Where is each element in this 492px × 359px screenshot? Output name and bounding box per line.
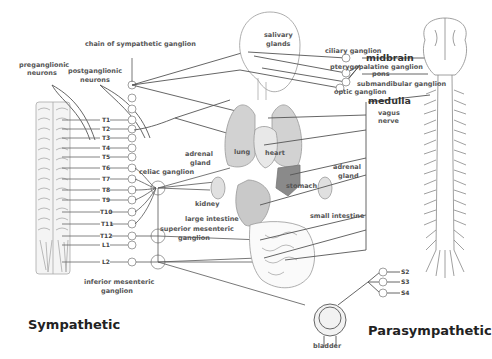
segment-t12: T12 [100,232,112,239]
label-kidney: kidney [195,201,219,208]
liver [236,180,270,226]
label-large-intestine: large intestine [185,216,239,223]
segment-t3: T3 [102,134,110,141]
segment-t6: T6 [102,164,110,171]
segment-l1: L1 [102,241,110,248]
label-salivary: salivary [264,32,293,39]
label-preganglionic: preganglionic [19,62,69,69]
segment-t11: T11 [101,220,113,227]
label-vagus-nerve: nerve [378,118,399,125]
label-celiac-ganglion: celiac ganglion [139,169,194,176]
segment-t9: T9 [102,196,110,203]
kidney-left [211,177,225,199]
parasympathetic-cns [423,18,466,278]
sympathetic-chain-ganglia [128,81,136,266]
label-inferior-mesenteric-ganglion: ganglion [101,288,133,295]
label-adrenal-left-gland: gland [190,160,211,167]
segment-s4: S4 [401,289,410,296]
spinal-nerve-lines [62,120,128,262]
segment-t8: T8 [102,186,110,193]
label-bladder: bladder [313,343,341,350]
label-small-intestine: small intestine [310,213,364,220]
segment-l2: L2 [102,258,110,265]
label-heart: heart [265,150,285,157]
label-lung: lung [234,149,250,156]
label-preganglionic-neurons: neurons [27,70,57,77]
label-superior-mesenteric-ganglion: ganglion [178,235,210,242]
sympathetic-spinal-cord [36,102,70,274]
label-medulla: medulla [368,97,411,104]
label-inferior-mesenteric: inferior mesenteric [84,279,154,286]
label-adrenal-right-gland: gland [338,173,359,180]
segment-t2: T2 [102,125,110,132]
stomach-shape [276,165,300,196]
segment-t7: T7 [102,175,110,182]
label-salivary-glands: glands [266,41,290,48]
segment-t10: T10 [100,208,112,215]
segment-s2: S2 [401,268,410,275]
label-postganglionic-neurons: neurons [80,77,110,84]
label-midbrain: midbrain [366,54,414,61]
lung-left [225,105,255,167]
segment-t5: T5 [102,153,110,160]
segment-t1: T1 [102,116,110,123]
heart-shape [254,126,277,168]
segment-s3: S3 [401,278,410,285]
title-parasympathetic: Parasympathetic [368,327,492,334]
label-pons: pons [372,71,390,78]
bladder-shape [314,304,346,346]
intestines [250,222,315,288]
label-postganglionic: postganglionic [68,68,122,75]
label-chain-of-sympathetic-ganglion: chain of sympathetic ganglion [85,41,196,48]
label-superior-mesenteric: superior mesenteric [160,226,234,233]
label-vagus: vagus [378,110,400,117]
segment-t4: T4 [102,144,110,151]
label-submandibular-ganglion: submandibular ganglion [357,81,446,88]
label-adrenal-right: adrenal [333,164,361,171]
label-adrenal-left: adrenal [185,151,213,158]
title-sympathetic: Sympathetic [28,321,120,328]
label-stomach: stomach [286,183,317,190]
